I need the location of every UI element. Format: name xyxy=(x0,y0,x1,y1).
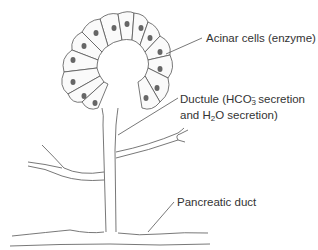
ductule-text-c: and H xyxy=(180,109,211,121)
ductule-text-d: O secretion) xyxy=(215,109,278,121)
pancreatic-duct-bottom xyxy=(10,244,210,246)
pancreatic-duct-top xyxy=(12,230,208,236)
ductule-text-a: Ductule (HCO xyxy=(180,93,252,105)
pancreatic-duct-leader-line xyxy=(148,202,174,232)
acinar-cells-label: Acinar cells (enzyme) xyxy=(206,32,316,45)
ductule-right-wall xyxy=(115,108,118,232)
ductule-label-line2: and H2O secretion) xyxy=(180,109,305,125)
ductule-text-b: secretion xyxy=(255,93,305,105)
acinar-leader-line xyxy=(166,38,202,54)
pancreatic-duct-label: Pancreatic duct xyxy=(177,196,256,209)
ductule-label-line1: Ductule (HCO3− secretion xyxy=(180,91,305,109)
acinar-cells xyxy=(62,12,173,109)
ductule-left-wall xyxy=(102,108,106,232)
ductule-label: Ductule (HCO3− secretion and H2O secreti… xyxy=(180,91,305,125)
